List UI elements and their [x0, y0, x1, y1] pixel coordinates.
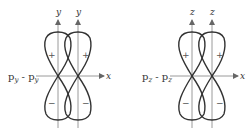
- sign-minus-1: −: [48, 98, 56, 108]
- figure-pz-pz: z z x + + − − pz - pz: [142, 7, 245, 128]
- sign-plus-1: +: [48, 50, 56, 60]
- sign-plus-1: +: [182, 50, 190, 60]
- z-axis-label-1: z: [189, 7, 195, 17]
- figure-py-py: y y x + + − − py - py: [8, 7, 111, 128]
- bond-label: py - py: [8, 71, 40, 84]
- sign-minus-2: −: [82, 98, 90, 108]
- z-axis-label-2: z: [209, 7, 215, 17]
- x-axis-label: x: [106, 71, 111, 81]
- bond-label: pz - pz: [142, 71, 172, 84]
- x-axis-label: x: [240, 71, 245, 81]
- orbital-diagram: y y x + + − − py - py z z x + + − − pz -…: [0, 0, 248, 138]
- sign-minus-2: −: [216, 98, 224, 108]
- y-axis-label-2: y: [75, 7, 82, 17]
- sign-minus-1: −: [182, 98, 190, 108]
- y-axis-label-1: y: [55, 7, 62, 17]
- sign-plus-2: +: [216, 50, 224, 60]
- sign-plus-2: +: [82, 50, 90, 60]
